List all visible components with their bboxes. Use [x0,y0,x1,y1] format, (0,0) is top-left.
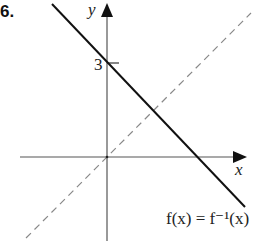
dashed-line-y-equals-x [26,13,251,238]
solid-line-label: f(x) = f⁻¹(x) [166,208,249,229]
y-axis-arrow-icon [101,3,113,17]
y-axis-label: y [88,0,96,20]
solid-line-f [52,4,245,207]
origin-point [106,156,109,159]
x-axis-label: x [235,160,243,180]
y-tick-label: 3 [94,55,103,75]
